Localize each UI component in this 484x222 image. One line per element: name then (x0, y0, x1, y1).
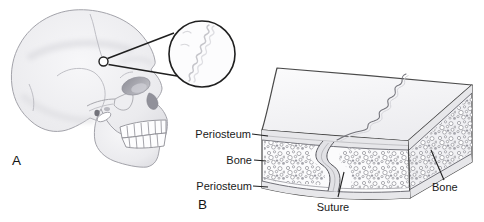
periosteum-bottom-label: Periosteum (185, 180, 252, 192)
magnifier-circle (169, 21, 235, 87)
panel-b-label: B (198, 198, 207, 212)
skull-illustration (11, 10, 167, 167)
ear-canal (94, 110, 99, 116)
periosteum-top-label: Periosteum (185, 128, 251, 140)
bone-block-illustration (252, 68, 472, 199)
bone-left-label: Bone (185, 154, 252, 166)
suture-label: Suture (305, 201, 361, 213)
bone-right-label: Bone (432, 181, 458, 193)
suture-location-marker (99, 57, 108, 66)
panel-a-label: A (12, 154, 21, 168)
anatomy-figure: A B Periosteum Bone Periosteum Suture Bo… (0, 0, 484, 222)
